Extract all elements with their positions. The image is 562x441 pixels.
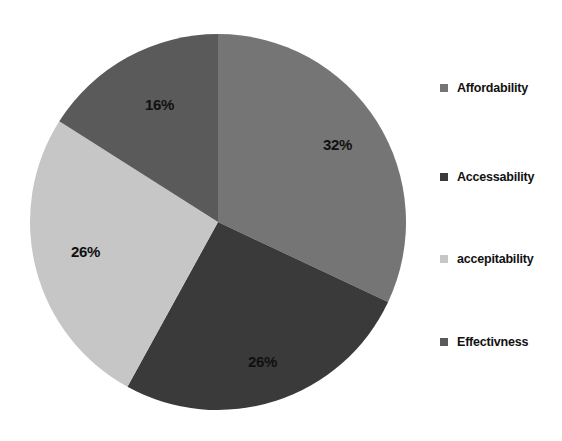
legend-item-affordability[interactable]: Affordability [440, 81, 528, 95]
legend-swatch-icon [440, 84, 448, 92]
legend-item-label: Effectivness [457, 335, 528, 349]
pie-slice-group [30, 34, 406, 410]
legend-item-accessability[interactable]: Accessability [440, 170, 534, 184]
legend-item-label: accepitability [457, 252, 533, 266]
legend-item-effectivness[interactable]: Effectivness [440, 335, 528, 349]
pie-slice-value-effectivness: 16% [145, 96, 174, 113]
legend-item-label: Affordability [457, 81, 528, 95]
pie-slice-value-accepitability: 26% [71, 243, 100, 260]
pie-chart-graphic [0, 0, 420, 441]
pie-chart-plot-area: 32% 26% 26% 16% [0, 0, 420, 441]
chart-legend: Affordability Accessability accepitabili… [440, 0, 562, 441]
legend-swatch-icon [440, 255, 448, 263]
legend-item-accepitability[interactable]: accepitability [440, 252, 533, 266]
pie-chart-page: 32% 26% 26% 16% Affordability Accessabil… [0, 0, 562, 441]
pie-slice-value-accessability: 26% [248, 353, 277, 370]
legend-item-label: Accessability [457, 170, 534, 184]
legend-swatch-icon [440, 338, 448, 346]
pie-slice-value-affordability: 32% [323, 136, 352, 153]
legend-swatch-icon [440, 173, 448, 181]
